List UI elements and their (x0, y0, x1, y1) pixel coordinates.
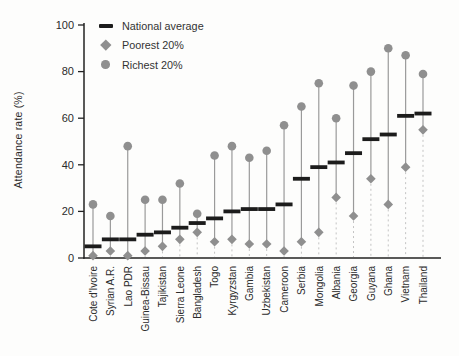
poorest-diamond-marker (140, 246, 150, 256)
x-category-label: Serbia (296, 266, 307, 295)
x-category-label: Cote d'Ivoire (88, 266, 99, 322)
national-average-dash-marker (102, 237, 119, 241)
national-average-dash-marker (241, 207, 258, 211)
national-average-dash-marker (137, 233, 154, 237)
x-category-label: Mongolia (314, 266, 325, 307)
poorest-diamond-marker (245, 239, 255, 249)
national-average-dash-marker (171, 226, 188, 230)
poorest-diamond-marker (175, 235, 185, 245)
national-average-dash-marker (223, 210, 240, 214)
richest-circle-marker (262, 147, 271, 156)
national-average-dash-marker (380, 133, 397, 137)
poorest-diamond-marker (383, 200, 393, 210)
national-average-dash-marker (415, 112, 432, 116)
legend-item-poorest-20: Poorest 20% (98, 36, 204, 56)
national-average-dash-marker (85, 244, 102, 248)
richest-circle-marker (89, 200, 98, 209)
chart-plot-area: 020406080100Cote d'IvoireSyrian A.R.Lao … (0, 0, 459, 356)
x-category-label: Cameroon (279, 266, 290, 313)
x-category-label: Togo (209, 266, 220, 288)
x-category-label: Lao PDR (123, 266, 134, 307)
poorest-diamond-marker (418, 125, 428, 135)
national-average-dash-marker (119, 237, 136, 241)
national-average-dash-marker (258, 207, 275, 211)
national-average-dash-icon (99, 24, 113, 28)
poorest-diamond-marker (279, 246, 289, 256)
national-average-dash-marker (328, 161, 345, 165)
poorest-diamond-marker (314, 228, 324, 238)
richest-circle-marker (419, 70, 428, 79)
national-average-dash-marker (154, 230, 171, 234)
poorest-diamond-marker (297, 237, 307, 247)
poorest-diamond-marker (158, 242, 168, 252)
chart-legend: National average Poorest 20% Richest 20% (98, 16, 204, 75)
x-category-label: Sierra Leone (175, 266, 186, 324)
poorest-diamond-marker (88, 251, 98, 261)
x-category-label: Syrian A.R. (105, 266, 116, 316)
poorest-diamond-marker (366, 174, 376, 184)
legend-item-richest-20: Richest 20% (98, 55, 204, 75)
richest-20-circle-icon (101, 60, 110, 69)
x-category-label: Tajikistan (157, 266, 168, 307)
x-category-label: Thailand (418, 266, 429, 304)
y-tick-label: 60 (62, 112, 74, 124)
poorest-diamond-marker (349, 211, 359, 221)
x-category-label: Gambia (244, 266, 255, 301)
richest-circle-marker (280, 121, 289, 130)
richest-circle-marker (314, 79, 323, 88)
legend-item-national-average: National average (98, 16, 204, 36)
x-category-label: Georgia (348, 266, 359, 302)
richest-circle-marker (123, 142, 132, 151)
richest-circle-marker (367, 67, 376, 76)
national-average-dash-marker (276, 203, 293, 207)
national-average-dash-marker (397, 114, 414, 118)
poorest-20-diamond-icon (100, 40, 111, 51)
national-average-dash-marker (310, 165, 327, 169)
legend-label-richest-20: Richest 20% (122, 59, 183, 71)
x-category-label: Vietnam (400, 266, 411, 303)
richest-circle-marker (384, 44, 393, 53)
attendance-rate-chart: Attendance rate (%) 020406080100Cote d'I… (0, 0, 459, 356)
y-tick-label: 100 (56, 19, 74, 31)
richest-circle-marker (245, 154, 254, 163)
richest-circle-marker (332, 114, 341, 123)
y-tick-label: 20 (62, 205, 74, 217)
richest-circle-marker (401, 51, 410, 60)
richest-circle-marker (193, 209, 202, 218)
national-average-dash-marker (293, 177, 310, 181)
poorest-diamond-marker (192, 228, 202, 238)
legend-label-national-average: National average (122, 20, 204, 32)
poorest-diamond-marker (106, 246, 116, 256)
richest-circle-marker (176, 179, 185, 188)
poorest-diamond-marker (210, 237, 220, 247)
y-tick-label: 80 (62, 65, 74, 77)
x-category-label: Uzbekistan (261, 266, 272, 315)
x-category-label: Guinea-Bissau (140, 266, 151, 332)
national-average-dash-marker (362, 137, 379, 141)
x-category-label: Bangladesh (192, 266, 203, 319)
legend-label-poorest-20: Poorest 20% (122, 39, 184, 51)
poorest-diamond-marker (262, 239, 272, 249)
richest-circle-marker (349, 81, 358, 90)
richest-circle-marker (141, 195, 150, 204)
richest-circle-marker (210, 151, 219, 160)
poorest-diamond-marker (401, 162, 411, 172)
poorest-diamond-marker (123, 251, 133, 261)
y-tick-label: 40 (62, 159, 74, 171)
poorest-diamond-marker (331, 193, 341, 203)
x-category-label: Guyana (366, 266, 377, 301)
richest-circle-marker (228, 142, 237, 151)
national-average-dash-marker (345, 151, 362, 155)
richest-circle-marker (297, 102, 306, 111)
x-category-label: Ghana (383, 266, 394, 296)
richest-circle-marker (106, 212, 115, 221)
y-tick-label: 0 (68, 252, 74, 264)
national-average-dash-marker (189, 221, 206, 225)
national-average-dash-marker (206, 216, 223, 220)
richest-circle-marker (158, 195, 167, 204)
y-axis-label: Attendance rate (%) (12, 69, 24, 211)
poorest-diamond-marker (227, 235, 237, 245)
x-category-label: Kyrgyzstan (227, 266, 238, 315)
x-category-label: Albania (331, 266, 342, 300)
